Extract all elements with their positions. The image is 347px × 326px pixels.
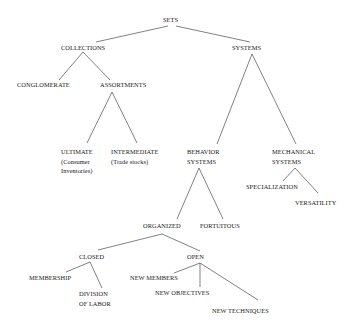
edge-systems-mechanical — [252, 54, 296, 144]
node-label: SETS — [163, 15, 178, 25]
edge-sets-collections — [96, 26, 168, 42]
edge-sets-systems — [176, 26, 250, 42]
node-label: OPEN — [187, 252, 204, 262]
node-versatility: VERSATILITY — [295, 198, 336, 208]
node-label: SYSTEMS — [272, 157, 315, 167]
node-label: DIVISION — [79, 289, 111, 299]
node-fortuitous: FORTUITOUS — [200, 221, 240, 231]
node-label: MEMBERSHIP — [29, 273, 71, 283]
node-sets: SETS — [163, 15, 178, 25]
node-label: BEHAVIOR — [187, 147, 220, 157]
node-new-techniques: NEW TECHNIQUES — [212, 306, 269, 316]
node-new-objectives: NEW OBJECTIVES — [155, 288, 209, 298]
node-label: (Consumer — [61, 157, 93, 167]
edge-systems-behavior — [217, 54, 252, 144]
node-label: NEW OBJECTIVES — [155, 288, 209, 298]
node-mechanical-systems: MECHANICAL SYSTEMS — [272, 147, 315, 166]
edge-open-new-members — [174, 263, 200, 273]
edge-assortments-intermediate — [112, 92, 137, 143]
node-label: COLLECTIONS — [61, 43, 105, 53]
node-label: (Trade stocks) — [111, 157, 158, 167]
node-label: INTERMEDIATE — [111, 147, 158, 157]
edge-collections-conglomerate — [59, 52, 83, 80]
edge-closed-membership — [66, 262, 90, 272]
node-new-members: NEW MEMBERS — [130, 273, 178, 283]
node-closed: CLOSED — [79, 252, 104, 262]
node-membership: MEMBERSHIP — [29, 273, 71, 283]
node-label: CLOSED — [79, 252, 104, 262]
edge-organized-open — [162, 234, 200, 251]
node-label: NEW MEMBERS — [130, 273, 178, 283]
edge-collections-assortments — [83, 52, 110, 80]
node-intermediate: INTERMEDIATE (Trade stocks) — [111, 147, 158, 166]
node-label: ORGANIZED — [143, 221, 181, 231]
node-label: Inventories) — [61, 166, 93, 176]
edge-assortments-ultimate — [87, 92, 112, 143]
node-label: FORTUITOUS — [200, 221, 240, 231]
node-organized: ORGANIZED — [143, 221, 181, 231]
node-open: OPEN — [187, 252, 204, 262]
node-label: NEW TECHNIQUES — [212, 306, 269, 316]
edge-mechanical-versatility — [295, 168, 318, 193]
node-collections: COLLECTIONS — [61, 43, 105, 53]
node-systems: SYSTEMS — [232, 43, 261, 53]
node-ultimate: ULTIMATE (Consumer Inventories) — [61, 147, 93, 176]
node-label: MECHANICAL — [272, 147, 315, 157]
node-behavior-systems: BEHAVIOR SYSTEMS — [187, 147, 220, 166]
edge-closed-division — [90, 262, 102, 288]
node-label: VERSATILITY — [295, 198, 336, 208]
node-label: CONGLOMERATE — [17, 80, 70, 90]
edge-behavior-organized — [177, 168, 199, 219]
node-division-of-labor: DIVISION OF LABOR — [79, 289, 111, 308]
node-label: ULTIMATE — [61, 147, 93, 157]
node-specialization: SPECIALIZATION — [246, 182, 298, 192]
edge-mechanical-specialization — [283, 168, 295, 181]
node-label: ASSORTMENTS — [100, 80, 146, 90]
node-assortments: ASSORTMENTS — [100, 80, 146, 90]
node-conglomerate: CONGLOMERATE — [17, 80, 70, 90]
edge-organized-closed — [98, 234, 162, 250]
tree-diagram: SETS COLLECTIONS SYSTEMS CONGLOMERATE AS… — [0, 0, 347, 326]
node-label: SYSTEMS — [232, 43, 261, 53]
edge-behavior-fortuitous — [199, 168, 223, 219]
node-label: SYSTEMS — [187, 157, 220, 167]
node-label: SPECIALIZATION — [246, 182, 298, 192]
node-label: OF LABOR — [79, 299, 111, 309]
